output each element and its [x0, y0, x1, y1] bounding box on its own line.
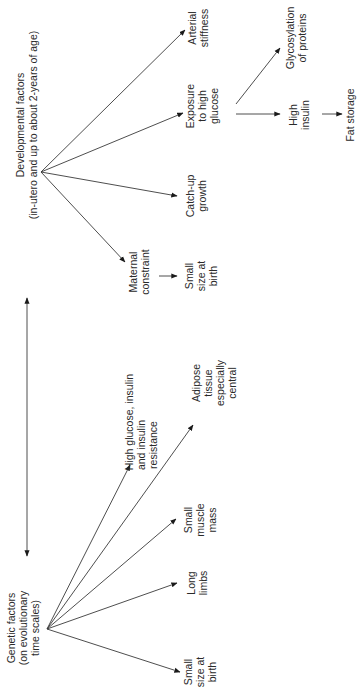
arterial-stiffness-label: Arterial stiffness — [186, 9, 210, 47]
svg-text:tissue: tissue — [202, 369, 214, 397]
developmental-factors-title: Developmental factors (in-utero and up t… — [14, 31, 39, 220]
svg-text:limbs: limbs — [197, 571, 209, 596]
svg-text:Fat storage: Fat storage — [344, 88, 356, 141]
svg-text:size at: size at — [195, 261, 207, 291]
arrow-to-exposure-glucose — [41, 113, 183, 172]
high-insulin-label: High insulin — [287, 100, 311, 130]
arrow-to-small-size-at-birth — [47, 629, 180, 672]
svg-text:size at: size at — [194, 657, 206, 687]
svg-text:(in-utero and up to about 2-ye: (in-utero and up to about 2-years of age… — [27, 31, 39, 220]
svg-text:Developmental factors: Developmental factors — [14, 73, 26, 177]
svg-text:Small: Small — [183, 263, 195, 289]
svg-text:muscle: muscle — [194, 503, 206, 536]
svg-text:especially: especially — [214, 359, 226, 406]
svg-text:stiffness: stiffness — [198, 9, 210, 47]
svg-text:Long: Long — [185, 571, 197, 595]
svg-text:Exposure: Exposure — [184, 84, 196, 129]
genetic-arrows — [47, 425, 193, 672]
exposure-high-glucose-label: Exposure to high glucose — [184, 84, 220, 129]
causal-diagram: Developmental factors (in-utero and up t… — [0, 0, 364, 697]
svg-text:Adipose: Adipose — [190, 364, 202, 402]
long-limbs-label: Long limbs — [185, 571, 209, 596]
maternal-constraint-label: Maternal constraint — [127, 249, 151, 295]
svg-text:resistance: resistance — [147, 421, 159, 469]
svg-text:growth: growth — [196, 180, 208, 212]
svg-text:to high: to high — [196, 90, 208, 122]
arrow-to-glycosylation — [236, 48, 280, 104]
svg-text:mass: mass — [206, 507, 218, 532]
glycosylation-label: Glycosylation of proteins — [284, 7, 308, 70]
svg-text:constraint: constraint — [139, 249, 151, 295]
adipose-tissue-label: Adipose tissue especially central — [190, 359, 238, 406]
small-muscle-mass-label: Small muscle mass — [182, 503, 218, 536]
svg-text:Small: Small — [182, 659, 194, 685]
arrow-to-catch-up-growth — [41, 172, 177, 196]
svg-text:Arterial: Arterial — [186, 11, 198, 44]
arrow-to-arterial-stiffness — [41, 30, 185, 172]
fat-storage-label: Fat storage — [344, 88, 356, 141]
svg-text:birth: birth — [206, 662, 218, 683]
svg-text:High: High — [287, 104, 299, 126]
genetic-small-size-at-birth-label: Small size at birth — [182, 657, 218, 687]
svg-text:Catch-up: Catch-up — [184, 175, 196, 218]
genetic-factors-title: Genetic factors (on evolutionary time sc… — [5, 590, 41, 665]
svg-text:glucose: glucose — [208, 88, 220, 124]
catch-up-growth-label: Catch-up growth — [184, 175, 208, 218]
svg-text:(on evolutionary: (on evolutionary — [17, 590, 29, 665]
dev-small-size-at-birth-label: Small size at birth — [183, 261, 219, 291]
svg-text:and insulin: and insulin — [135, 420, 147, 470]
svg-text:time scales): time scales) — [29, 600, 41, 656]
svg-text:High glucose, insulin: High glucose, insulin — [123, 374, 135, 470]
svg-text:central: central — [226, 367, 238, 399]
svg-text:insulin: insulin — [299, 100, 311, 130]
svg-text:Genetic factors: Genetic factors — [5, 593, 17, 664]
high-glucose-insulin-label: High glucose, insulin and insulin resist… — [123, 374, 159, 470]
svg-text:Maternal: Maternal — [127, 252, 139, 293]
developmental-arrows — [41, 30, 342, 276]
arrow-to-small-muscle-mass — [47, 519, 176, 629]
svg-text:Small: Small — [182, 507, 194, 533]
svg-text:birth: birth — [207, 266, 219, 287]
svg-text:of proteins: of proteins — [296, 13, 308, 62]
svg-text:Glycosylation: Glycosylation — [284, 7, 296, 70]
arrow-to-adipose-tissue — [47, 425, 193, 629]
arrow-to-maternal-constraint — [41, 172, 125, 262]
